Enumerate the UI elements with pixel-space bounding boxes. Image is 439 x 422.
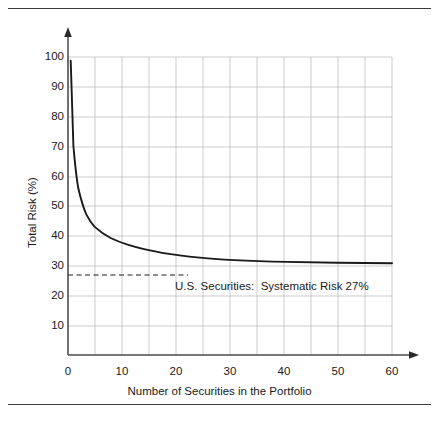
y-tick-label-70: 70 <box>30 141 64 153</box>
x-tick-label-40: 40 <box>269 366 299 378</box>
y-tick-label-100: 100 <box>30 51 64 63</box>
x-tick-label-50: 50 <box>323 366 353 378</box>
chart-plot-area <box>0 0 439 422</box>
y-tick-label-80: 80 <box>30 111 64 123</box>
y-tick-label-20: 20 <box>30 290 64 302</box>
y-tick-label-30: 30 <box>30 260 64 272</box>
x-tick-label-60: 60 <box>377 366 407 378</box>
x-tick-label-30: 30 <box>215 366 245 378</box>
axis-lines <box>68 34 412 355</box>
total-risk-curve <box>71 61 392 264</box>
y-tick-label-90: 90 <box>30 81 64 93</box>
x-tick-label-10: 10 <box>107 366 137 378</box>
x-tick-label-20: 20 <box>161 366 191 378</box>
risk-diversification-figure: 100 90 80 70 60 50 40 30 20 10 0 10 20 3… <box>0 0 439 422</box>
x-axis-arrow-icon <box>409 351 419 359</box>
systematic-risk-annotation: U.S. Securities: Systematic Risk 27% <box>175 281 369 293</box>
x-tick-label-0: 0 <box>53 366 83 378</box>
y-axis-arrow-icon <box>64 27 72 37</box>
y-axis-title: Total Risk (%) <box>27 177 39 248</box>
y-tick-label-10: 10 <box>30 320 64 332</box>
x-axis-title: Number of Securities in the Portfolio <box>0 386 439 398</box>
